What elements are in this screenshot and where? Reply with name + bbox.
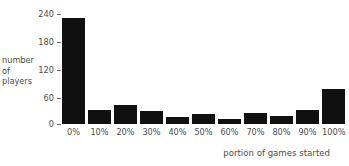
bar-30pct [140, 111, 163, 124]
y-tick-label-60: 60 [24, 94, 54, 102]
bar-series [62, 12, 345, 124]
x-tick-label-40pct: 40% [166, 127, 189, 139]
y-tick-dash-0 [57, 124, 61, 125]
bar-20pct [114, 105, 137, 124]
x-tick-label-50pct: 50% [192, 127, 215, 139]
y-tick-dash-240 [57, 14, 61, 15]
bar-60pct [218, 119, 241, 124]
y-tick-label-180: 180 [24, 38, 54, 46]
y-axis-title-line-1: number [2, 55, 50, 66]
bar-100pct [322, 89, 345, 124]
x-tick-label-80pct: 80% [270, 127, 293, 139]
bar-10pct [88, 110, 111, 124]
bar-70pct [244, 113, 267, 124]
x-tick-label-70pct: 70% [244, 127, 267, 139]
y-tick-label-120: 120 [24, 66, 54, 74]
x-tick-label-60pct: 60% [218, 127, 241, 139]
x-tick-label-20pct: 20% [114, 127, 137, 139]
x-tick-label-0pct: 0% [62, 127, 85, 139]
bar-50pct [192, 114, 215, 124]
x-tick-label-90pct: 90% [296, 127, 319, 139]
bar-80pct [270, 116, 293, 124]
plot-area [62, 12, 345, 124]
bar-90pct [296, 110, 319, 124]
x-tick-label-10pct: 10% [88, 127, 111, 139]
x-axis-title: portion of games started [0, 148, 330, 158]
y-tick-dash-120 [57, 70, 61, 71]
y-tick-label-240: 240 [24, 10, 54, 18]
bar-chart: number of players 240 180 120 60 0 0%10%… [0, 0, 349, 166]
y-tick-dash-60 [57, 98, 61, 99]
y-tick-label-0: 0 [24, 120, 54, 128]
x-tick-label-100pct: 100% [322, 127, 345, 139]
y-axis-title-line-3: players [2, 76, 50, 87]
y-tick-dash-180 [57, 42, 61, 43]
bar-0pct [62, 18, 85, 124]
bar-40pct [166, 117, 189, 124]
x-axis-tick-labels: 0%10%20%30%40%50%60%70%80%90%100% [62, 127, 345, 139]
x-tick-label-30pct: 30% [140, 127, 163, 139]
